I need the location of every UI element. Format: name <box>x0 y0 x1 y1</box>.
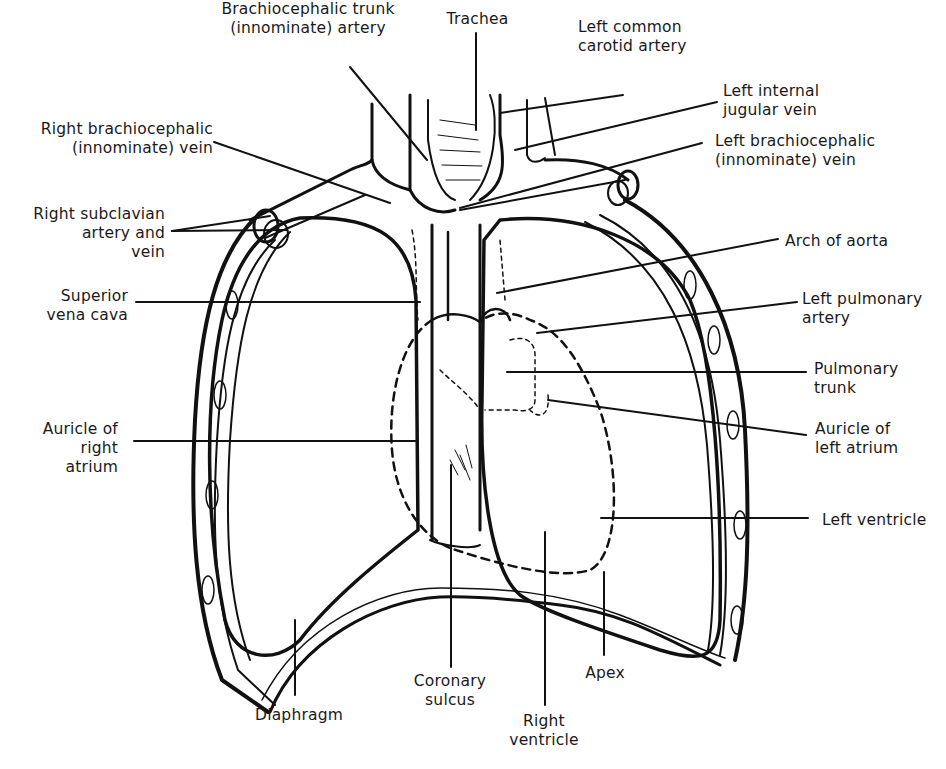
label-left-internal-jugular: Left internal jugular vein <box>723 82 843 120</box>
leader-left-common-carotid <box>500 95 623 113</box>
label-trachea: Trachea <box>440 10 515 29</box>
label-coronary-sulcus: Coronary sulcus <box>405 672 495 710</box>
leader-left-brachiocephalic-vein <box>460 143 702 208</box>
leader-brachiocephalic-trunk <box>350 67 427 160</box>
label-brachiocephalic-trunk: Brachiocephalic trunk (innominate) arter… <box>218 0 398 38</box>
label-apex: Apex <box>580 664 630 683</box>
lungs <box>210 218 721 657</box>
leader-auricle-left-atrium <box>548 400 806 435</box>
leader-left-pulmonary-artery <box>537 302 797 333</box>
label-pulmonary-trunk: Pulmonary trunk <box>814 360 924 398</box>
label-auricle-right-atrium: Auricle of right atrium <box>30 420 118 477</box>
leader-left-internal-jugular <box>515 102 717 150</box>
label-right-brachiocephalic-vein: Right brachiocephalic (innominate) vein <box>28 120 213 158</box>
label-diaphragm: Diaphragm <box>255 706 355 725</box>
label-superior-vena-cava: Superior vena cava <box>40 287 128 325</box>
label-arch-of-aorta: Arch of aorta <box>785 232 915 251</box>
label-right-ventricle: Right ventricle <box>504 712 584 750</box>
label-left-common-carotid: Left common carotid artery <box>578 18 708 56</box>
leader-right-subclavian <box>172 230 287 231</box>
label-left-ventricle: Left ventricle <box>822 511 942 530</box>
label-left-brachiocephalic-vein: Left brachiocephalic (innominate) vein <box>715 132 915 170</box>
heart <box>391 230 614 573</box>
label-auricle-left-atrium: Auricle of left atrium <box>815 420 925 458</box>
great-vessels <box>250 95 638 540</box>
label-right-subclavian: Right subclavian artery and vein <box>25 205 165 262</box>
rib-cage <box>193 200 747 712</box>
label-left-pulmonary-artery: Left pulmonary artery <box>802 290 932 328</box>
